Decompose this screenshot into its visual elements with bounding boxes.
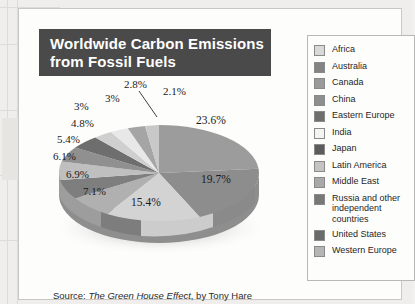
- figure-panel: Worldwide Carbon Emissions from Fossil F…: [18, 8, 402, 300]
- legend-item: Canada: [314, 77, 414, 89]
- legend-item: Latin America: [314, 160, 414, 172]
- legend-item-label: Russia and otherindependent countries: [332, 193, 414, 225]
- legend-item: Middle East: [314, 176, 414, 188]
- legend-item-label: Africa: [332, 44, 355, 55]
- source-prefix: Source:: [53, 290, 88, 301]
- legend-item-label: Latin America: [332, 160, 387, 171]
- pie-label-19-7: 19.7%: [201, 173, 231, 185]
- legend-swatch-icon: [314, 128, 325, 139]
- page-title-line-2: from Fossil Fuels: [50, 53, 271, 71]
- legend-swatch-icon: [314, 111, 325, 122]
- legend-swatch-icon: [314, 78, 325, 89]
- legend-swatch-icon: [314, 161, 325, 172]
- legend-item: Russia and otherindependent countries: [314, 193, 414, 225]
- legend-swatch-icon: [314, 144, 325, 155]
- legend-item-label: Australia: [332, 61, 367, 72]
- pie-slice-united-states: [159, 125, 259, 173]
- pie-label-15-4: 15.4%: [131, 196, 161, 208]
- pie-label-3-b: 3%: [105, 92, 120, 104]
- legend-item: Western Europe: [314, 245, 414, 257]
- source-caption: Source: The Green House Effect, by Tony …: [53, 290, 252, 301]
- legend-swatch-icon: [314, 194, 325, 205]
- legend-swatch-icon: [314, 230, 325, 241]
- legend-item: Australia: [314, 61, 414, 73]
- page-title-line-1: Worldwide Carbon Emissions: [50, 35, 271, 53]
- legend-item-label: India: [332, 127, 352, 138]
- pie-label-3-a: 3%: [74, 100, 89, 112]
- pie-chart: 23.6% 19.7% 15.4% 7.1% 6.9% 6.1% 5.4% 4.…: [41, 77, 293, 262]
- pie-label-5-4: 5.4%: [57, 133, 80, 145]
- legend-item-label: United States: [332, 229, 386, 240]
- legend-item-label: Japan: [332, 143, 357, 154]
- pie-label-4-8: 4.8%: [71, 117, 94, 129]
- pie-label-23-6: 23.6%: [196, 114, 226, 126]
- legend-item-label: Eastern Europe: [332, 110, 395, 121]
- chart-title-banner: Worldwide Carbon Emissions from Fossil F…: [39, 29, 271, 76]
- legend-item-label: Middle East: [332, 176, 379, 187]
- pie-label-7-1: 7.1%: [83, 185, 106, 197]
- legend-item: China: [314, 94, 414, 106]
- legend-item: United States: [314, 229, 414, 241]
- legend-item: Africa: [314, 44, 414, 56]
- leader-line-28: [139, 91, 157, 117]
- source-suffix: , by Tony Hare: [191, 290, 252, 301]
- legend-item-label: Canada: [332, 77, 364, 88]
- legend-swatch-icon: [314, 45, 325, 56]
- chart-legend: AfricaAustraliaCanadaChinaEastern Europe…: [307, 35, 415, 281]
- pie-label-6-1: 6.1%: [53, 150, 76, 162]
- pie-label-2-8: 2.8%: [124, 78, 147, 90]
- legend-item-label-line2: independent countries: [332, 203, 414, 224]
- legend-swatch-icon: [314, 246, 325, 257]
- legend-item-label: China: [332, 94, 356, 105]
- legend-swatch-icon: [314, 62, 325, 73]
- legend-swatch-icon: [314, 177, 325, 188]
- legend-item: Eastern Europe: [314, 110, 414, 122]
- pie-label-6-9: 6.9%: [66, 168, 89, 180]
- legend-item: Japan: [314, 143, 414, 155]
- pie-label-2-1: 2.1%: [163, 85, 186, 97]
- legend-item-label: Western Europe: [332, 245, 397, 256]
- legend-swatch-icon: [314, 95, 325, 106]
- legend-item: India: [314, 127, 414, 139]
- source-book-title: The Green House Effect: [88, 290, 190, 301]
